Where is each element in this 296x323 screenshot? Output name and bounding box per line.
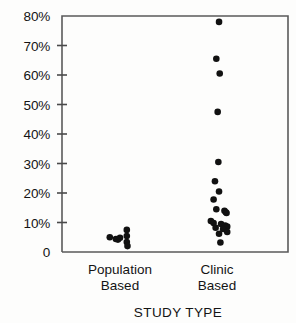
data-point	[216, 19, 223, 26]
data-point	[214, 109, 221, 116]
data-point	[213, 55, 220, 62]
data-point	[212, 178, 219, 185]
plot-canvas: 80%70%60%50%40%30%20%10%0 PopulationBase…	[0, 0, 296, 323]
y-axis-tick-labels: 80%70%60%50%40%30%20%10%0	[24, 9, 51, 260]
data-point	[124, 243, 131, 250]
x-axis-category-labels: PopulationBasedClinicBased	[88, 262, 236, 293]
x-axis-category-label-line1: Population	[88, 262, 152, 277]
data-point	[210, 196, 217, 203]
x-axis-category-label-line2: Based	[198, 278, 236, 293]
data-point	[107, 234, 114, 241]
x-axis-category-label-line2: Based	[101, 278, 139, 293]
data-point	[224, 229, 231, 236]
y-axis-tick-label: 50%	[24, 98, 51, 113]
data-point	[124, 227, 131, 234]
plot-frame	[62, 16, 288, 252]
data-point	[217, 239, 224, 246]
data-point	[223, 210, 230, 217]
data-point-group	[107, 19, 231, 250]
y-axis-tick-label: 80%	[24, 9, 51, 24]
y-axis-tick-label: 20%	[24, 186, 51, 201]
data-point	[124, 233, 131, 240]
data-point	[216, 230, 223, 237]
y-axis-tick-label: 10%	[24, 216, 51, 231]
data-point	[117, 235, 124, 242]
data-point	[212, 225, 219, 232]
x-axis-category-label-line1: Clinic	[200, 262, 233, 277]
y-axis-tick-label: 30%	[24, 157, 51, 172]
data-point	[216, 70, 223, 77]
x-axis-title: STUDY TYPE	[134, 305, 222, 320]
y-axis-tick-label: 60%	[24, 68, 51, 83]
y-axis-tick-label: 0	[43, 245, 50, 260]
scatter-plot-figure: 80%70%60%50%40%30%20%10%0 PopulationBase…	[0, 0, 296, 323]
data-point	[215, 159, 222, 166]
y-axis-tick-label: 40%	[24, 127, 51, 142]
data-point	[213, 206, 220, 213]
axis-frame	[62, 16, 288, 252]
y-axis-tick-label: 70%	[24, 39, 51, 54]
data-point	[216, 188, 223, 195]
